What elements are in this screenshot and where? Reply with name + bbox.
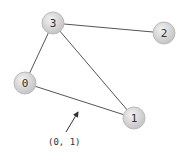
node-label: 1 [131,112,138,125]
edge-label: (0, 1) [48,137,81,147]
edge-0-1 [25,83,134,118]
edge-3-1 [53,23,134,118]
node-label: 3 [50,17,57,30]
edges [25,23,164,118]
annotation: (0, 1) [48,112,81,147]
node-label: 0 [22,77,29,90]
graph-diagram: (0, 1) 3 2 0 1 [0,0,186,161]
node-0[interactable]: 0 [14,72,36,94]
annotation-arrow-icon [66,112,78,132]
node-2[interactable]: 2 [153,22,175,44]
edge-3-2 [53,23,164,33]
node-label: 2 [161,27,168,40]
node-1[interactable]: 1 [123,107,145,129]
node-3[interactable]: 3 [42,12,64,34]
